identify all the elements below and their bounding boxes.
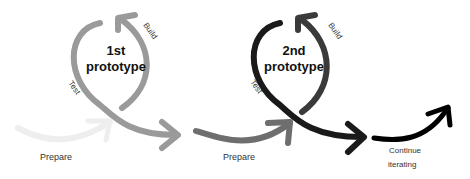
- stage-2-build-label: Build: [326, 21, 344, 41]
- continue-label-line2: iterating: [388, 160, 416, 169]
- stage-2-title-line2: prototype: [264, 59, 324, 74]
- prepare-arrow-2: [196, 122, 290, 143]
- stage-1-title-line2: prototype: [86, 59, 146, 74]
- stage-1-title-line1: 1st: [107, 43, 126, 58]
- continue-arrow: [374, 107, 450, 140]
- stage-2-title-line1: 2nd: [282, 43, 305, 58]
- stage-1-build-label: Build: [141, 21, 159, 41]
- continue-label-line1: Continue: [389, 146, 422, 155]
- iteration-diagram: 1st prototype Build Test Prepare 2nd pro…: [0, 0, 470, 179]
- stage-2-prepare-label: Prepare: [223, 152, 255, 162]
- prepare-arrow-1: [18, 121, 110, 140]
- loop-1: [74, 15, 178, 148]
- stage-1-prepare-label: Prepare: [40, 152, 72, 162]
